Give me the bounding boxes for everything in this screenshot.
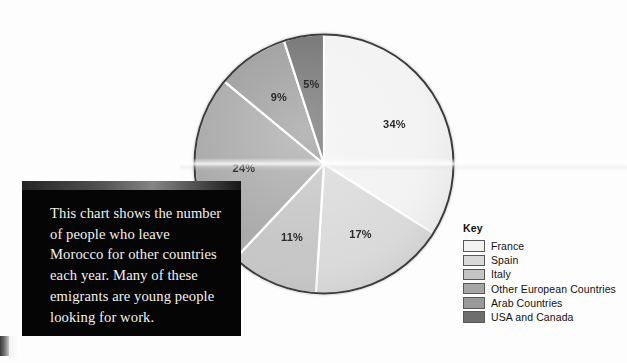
caption-box: This chart shows the number of people wh… [22, 181, 241, 336]
legend-item: Italy [463, 267, 623, 281]
legend-item: France [463, 239, 623, 253]
legend-swatch [463, 311, 485, 323]
legend-item: USA and Canada [463, 310, 623, 324]
legend-rows: FranceSpainItalyOther European Countries… [463, 239, 623, 324]
legend-label: Italy [491, 268, 511, 280]
chart-legend: Key FranceSpainItalyOther European Count… [463, 222, 623, 324]
pie-slice-label: 11% [281, 231, 303, 243]
legend-label: Other European Countries [491, 283, 616, 295]
chart-page: 34%17%11%24%9%5% This chart shows the nu… [0, 0, 627, 363]
legend-swatch [463, 297, 485, 309]
legend-swatch [463, 255, 485, 267]
legend-swatch [463, 283, 485, 295]
pie-slice-label: 34% [383, 118, 406, 130]
legend-title: Key [463, 222, 623, 234]
legend-label: France [491, 240, 524, 252]
pie-slice-label: 9% [271, 91, 287, 103]
legend-item: Spain [463, 253, 623, 267]
legend-item: Other European Countries [463, 282, 623, 296]
legend-label: Spain [491, 254, 518, 266]
legend-swatch [463, 269, 485, 281]
legend-item: Arab Countries [463, 296, 623, 310]
legend-label: Arab Countries [491, 297, 562, 309]
pie-slice-label: 24% [233, 162, 256, 174]
pie-slice-label: 5% [303, 78, 319, 90]
scan-edge-artifact-light [9, 336, 19, 358]
pie-slice-label: 17% [349, 228, 372, 240]
caption-text: This chart shows the number of people wh… [50, 203, 223, 327]
legend-swatch [463, 240, 485, 252]
legend-label: USA and Canada [491, 311, 574, 323]
